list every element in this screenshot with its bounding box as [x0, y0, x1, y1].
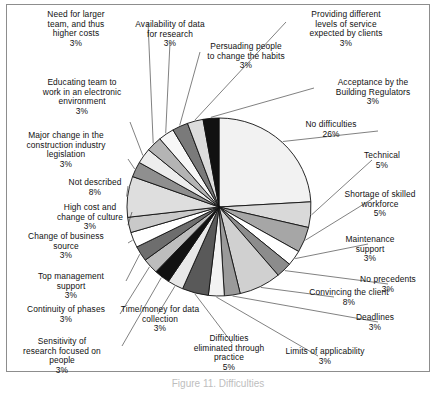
label-major-change-in-legislation: Major change in the construction industr… [6, 131, 126, 169]
label-limits-of-applicability: Limits of applicability3% [272, 347, 378, 366]
label-time-money-for-data-collection: Time/money for data collection3% [110, 305, 210, 334]
label-not-described: Not described8% [56, 178, 134, 197]
leader-line [126, 254, 140, 281]
label-continuity-of-phases: Continuity of phases3% [10, 305, 122, 324]
leader-line [166, 42, 170, 133]
pie-chart-figure: Need for larger team, and thus higher co… [0, 0, 436, 396]
pie-slices [127, 118, 311, 296]
label-top-management-support: Top management support3% [20, 272, 122, 301]
label-persuading-people-to-change-habits: Persuading people to change the habits3% [196, 42, 296, 71]
label-providing-different-levels-of-service: Providing different levels of service ex… [288, 10, 404, 48]
label-need-for-larger-team: Need for larger team, and thus higher co… [28, 10, 124, 48]
label-educating-team-electronic-environment: Educating team to work in an electronic … [24, 78, 140, 116]
leader-line [130, 122, 143, 155]
label-acceptance-by-building-regulators: Acceptance by the Building Regulators3% [318, 78, 428, 107]
label-no-precedents: No precedents3% [346, 275, 430, 294]
figure-caption: Figure 11. Difficulties [0, 378, 436, 394]
label-difficulties-eliminated-through-practice: Difficulties eliminated through practice… [186, 334, 272, 372]
leader-line [128, 159, 135, 169]
label-change-of-business-source: Change of business source3% [12, 232, 120, 261]
label-deadlines: Deadlines3% [336, 313, 414, 332]
leader-line [211, 88, 314, 117]
label-technical: Technical5% [342, 151, 422, 170]
label-shortage-of-skilled-workforce: Shortage of skilled workforce5% [330, 190, 430, 219]
label-maintenance-support: Maintenance support3% [328, 235, 412, 264]
label-sensitivity-of-research-focused-on-people: Sensitivity of research focused on peopl… [6, 337, 118, 375]
label-no-difficulties: No difficulties26% [286, 120, 376, 139]
label-high-cost-and-change-of-culture: High cost and change of culture3% [42, 203, 138, 232]
leader-line [128, 240, 133, 243]
